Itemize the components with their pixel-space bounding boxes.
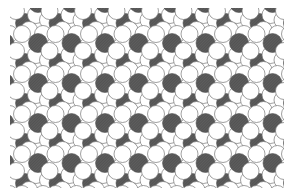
sphere-lattice-illustration	[0, 0, 293, 196]
sphere-packing-figure	[0, 0, 293, 196]
sphere-grid	[0, 0, 293, 196]
